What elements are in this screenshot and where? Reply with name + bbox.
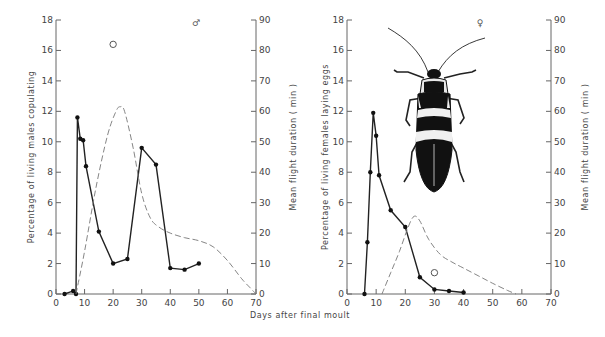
y-tick-label-right: 70 [554,76,566,86]
x-tick-label: 70 [250,298,262,308]
y-axis-right-label: Mean flight duration ( min ) [581,84,590,211]
x-tick-label: 30 [136,298,148,308]
data-point [447,289,451,293]
data-point [418,275,422,279]
data-point [365,240,369,244]
data-point [62,292,66,296]
y-tick-label-left: 6 [47,198,53,208]
data-point [84,164,88,168]
chart-panel-males: 0102030405060700246810121416180102030405… [27,15,298,308]
y-tick-label-right: 40 [554,167,566,177]
x-tick-label: 40 [165,298,177,308]
y-tick-label-right: 0 [259,289,265,299]
x-tick-label: 10 [79,298,91,308]
y-tick-label-left: 14 [42,76,54,86]
x-axis-label: Days after final moult [250,311,350,320]
y-tick-label-left: 12 [333,106,344,116]
y-tick-label-left: 6 [338,198,344,208]
y-tick-label-left: 10 [42,137,54,147]
y-tick-label-left: 0 [338,289,344,299]
data-point [197,261,201,265]
data-point [432,287,436,291]
x-tick-label: 20 [107,298,119,308]
data-point [154,162,158,166]
open-circle-marker [110,41,116,47]
male-symbol-icon: ♂ [192,18,200,28]
x-tick-label: 60 [516,298,528,308]
data-point [374,133,378,137]
chart-panel-females: 0102030405060700246810121416180102030405… [321,15,590,308]
x-tick-label: 0 [344,298,350,308]
data-point [461,290,465,294]
y-tick-label-left: 16 [333,45,345,55]
x-tick-label: 30 [429,298,441,308]
y-tick-label-right: 20 [554,228,566,238]
x-tick-label: 20 [400,298,412,308]
data-point [368,170,372,174]
y-tick-label-left: 0 [47,289,53,299]
y-tick-label-left: 12 [42,106,53,116]
data-point [75,115,79,119]
y-tick-label-left: 2 [47,259,53,269]
data-point [125,257,129,261]
x-tick-label: 40 [458,298,470,308]
y-tick-label-left: 10 [333,137,345,147]
x-tick-label: 60 [222,298,234,308]
y-tick-label-right: 20 [259,228,271,238]
flight-duration-curve [382,216,516,294]
y-axis-left-label: Percentage of living females laying eggs [321,64,330,250]
x-tick-label: 0 [53,298,59,308]
y-tick-label-left: 4 [338,228,344,238]
data-point [389,208,393,212]
data-point [81,138,85,142]
y-tick-label-right: 90 [554,15,566,25]
flight-duration-curve [76,106,256,294]
y-tick-label-right: 30 [554,198,566,208]
y-tick-label-right: 60 [259,106,271,116]
data-point [140,146,144,150]
percentage-line [65,117,199,294]
y-tick-label-left: 18 [42,15,54,25]
x-tick-label: 50 [193,298,205,308]
data-point [362,292,366,296]
data-point [97,229,101,233]
y-tick-label-right: 30 [259,198,271,208]
x-tick-label: 10 [370,298,382,308]
y-tick-label-left: 8 [47,167,53,177]
y-tick-label-right: 80 [259,45,271,55]
data-point [168,266,172,270]
y-tick-label-left: 2 [338,259,344,269]
y-tick-label-right: 50 [259,137,271,147]
y-tick-label-left: 8 [338,167,344,177]
data-point [111,261,115,265]
beetle-illustration-icon [388,28,485,192]
data-point [371,111,375,115]
y-axis-left-label: Percentage of living males copulating [27,71,36,244]
x-tick-label: 70 [545,298,557,308]
y-tick-label-right: 80 [554,45,566,55]
y-tick-label-right: 60 [554,106,566,116]
y-tick-label-right: 50 [554,137,566,147]
y-tick-label-left: 4 [47,228,53,238]
open-circle-marker [431,269,437,275]
x-tick-label: 50 [487,298,499,308]
figure-canvas: 0102030405060700246810121416180102030405… [0,0,605,337]
y-tick-label-left: 14 [333,76,345,86]
y-tick-label-right: 10 [554,259,566,269]
y-tick-label-left: 16 [42,45,54,55]
y-tick-label-left: 18 [333,15,345,25]
y-tick-label-right: 90 [259,15,271,25]
data-point [403,225,407,229]
y-tick-label-right: 0 [554,289,560,299]
data-point [182,267,186,271]
y-tick-label-right: 10 [259,259,271,269]
female-symbol-icon: ♀ [477,18,484,28]
y-tick-label-right: 70 [259,76,271,86]
y-tick-label-right: 40 [259,167,271,177]
data-point [377,173,381,177]
y-axis-right-label: Mean flight duration ( min ) [289,84,298,211]
